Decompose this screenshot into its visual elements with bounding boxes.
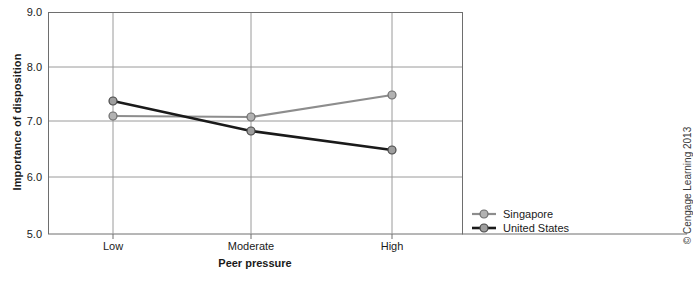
data-point-united-states-high: [388, 146, 396, 154]
data-point-singapore-low: [109, 112, 117, 120]
copyright-credit: © Cengage Learning 2013: [682, 111, 693, 261]
data-point-singapore-moderate: [247, 113, 255, 121]
data-point-united-states-low: [109, 97, 117, 105]
plot-frame: [49, 13, 463, 235]
data-point-singapore-high: [388, 91, 396, 99]
legend-marker-united-states: [480, 224, 488, 232]
legend-label-united-states: United States: [503, 223, 569, 234]
legend-marker-singapore: [480, 210, 488, 218]
data-point-united-states-moderate: [247, 127, 255, 135]
legend-label-singapore: Singapore: [503, 209, 553, 220]
series-line-united-states: [113, 101, 392, 150]
